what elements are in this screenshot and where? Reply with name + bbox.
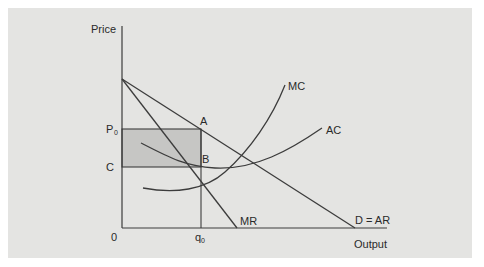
demand-label: D = AR xyxy=(355,214,390,226)
y-axis-label: Price xyxy=(91,23,116,35)
ac-label: AC xyxy=(326,124,341,136)
monopoly-diagram: Price Output 0 P 0 C q 0 A B MC AC MR D … xyxy=(0,0,484,267)
mr-label: MR xyxy=(240,215,257,227)
q0-subscript: 0 xyxy=(201,237,205,244)
p0-subscript: 0 xyxy=(114,129,118,136)
c-label: C xyxy=(106,161,114,173)
profit-area xyxy=(122,129,201,167)
point-b-label: B xyxy=(202,153,209,165)
p0-label: P xyxy=(106,123,113,135)
point-a-label: A xyxy=(200,115,208,127)
x-axis-label: Output xyxy=(354,238,387,250)
mc-label: MC xyxy=(288,80,305,92)
origin-label: 0 xyxy=(111,231,117,243)
